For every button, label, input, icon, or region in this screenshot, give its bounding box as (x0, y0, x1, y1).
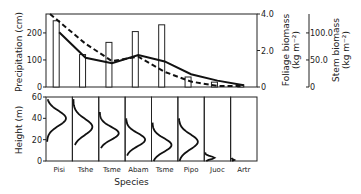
y3-tick-label: 0 (310, 83, 315, 92)
species-panel (204, 97, 230, 161)
species-label: Artr (237, 166, 250, 174)
height-profile-curve (179, 118, 198, 161)
species-panel (46, 97, 72, 161)
species-label: Pisi (53, 166, 65, 174)
height-tick-label: 40 (32, 114, 42, 123)
precip-bar (53, 21, 59, 87)
y2-tick-label: 4.0 (261, 10, 274, 19)
stem-axis-label: Stem biomass (331, 18, 341, 82)
species-label: Abam (128, 166, 149, 174)
foliage-line (59, 32, 244, 85)
height-tick-label: 20 (32, 136, 42, 145)
height-profile-curve (100, 112, 119, 148)
height-tick-label: 0 (37, 157, 42, 166)
species-label: Tshe (77, 166, 94, 174)
y2-tick-label: 2.0 (261, 47, 274, 56)
height-axis-label: Height (m) (14, 106, 24, 154)
precip-bar (106, 42, 112, 87)
foliage-axis-label: Foliage biomass (281, 14, 291, 87)
precip-bar (80, 55, 86, 87)
y-tick-label: 100 (27, 56, 42, 65)
species-label: Juoc (209, 166, 225, 174)
precip-axis-label: Precipitation (cm) (14, 12, 24, 92)
species-panel (178, 97, 204, 161)
height-profile-curve (126, 118, 145, 155)
species-label: Pipo (184, 166, 199, 174)
species-axis-label: Species (114, 177, 149, 187)
species-label: Tsme (155, 166, 174, 174)
species-label: Tsme (102, 166, 121, 174)
height-profile-curve (205, 152, 214, 161)
y-tick-label: 0 (37, 83, 42, 92)
stem-axis-units: (kg m⁻²) (341, 31, 351, 69)
y3-tick-label: 100.0 (310, 29, 333, 38)
species-panel (231, 97, 257, 161)
foliage-axis-units: (kg m⁻²) (291, 31, 301, 69)
y3-tick-label: 50.0 (310, 56, 328, 65)
species-panel (99, 97, 125, 161)
species-panel (72, 97, 98, 161)
height-profile-curve (153, 123, 172, 161)
y2-tick-label: 0 (261, 83, 266, 92)
precip-bar (159, 25, 165, 87)
height-profile-curve (47, 99, 66, 142)
height-tick-label: 60 (32, 93, 42, 102)
precip-bar (132, 32, 138, 87)
chart: 010020002.04.0050.0100.0Precipitation (c… (0, 0, 361, 194)
y-tick-label: 200 (27, 29, 42, 38)
height-profile-curve (73, 99, 92, 145)
height-profile-curve (232, 158, 235, 161)
